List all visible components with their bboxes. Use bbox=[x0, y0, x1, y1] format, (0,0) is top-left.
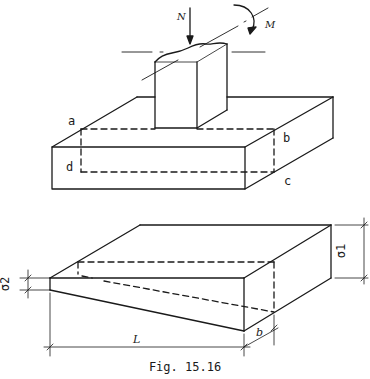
width-label: b bbox=[256, 327, 263, 338]
axis-lines bbox=[122, 8, 268, 80]
corner-label-d: d bbox=[66, 161, 73, 173]
corner-label-a: a bbox=[68, 115, 75, 127]
column bbox=[155, 43, 227, 128]
stress-max-label: σ1 bbox=[335, 244, 347, 258]
axial-force-label: N bbox=[177, 12, 186, 22]
foundation-diagram bbox=[0, 0, 370, 379]
stress-min-label: σ2 bbox=[0, 277, 11, 291]
figure-caption: Fig. 15.16 bbox=[0, 360, 370, 374]
corner-label-c: c bbox=[284, 175, 291, 187]
corner-label-b: b bbox=[283, 132, 290, 144]
moment-label: M bbox=[265, 20, 275, 30]
axial-force-arrow bbox=[187, 8, 193, 44]
length-label: L bbox=[133, 334, 140, 345]
moment-arrow bbox=[234, 5, 256, 34]
